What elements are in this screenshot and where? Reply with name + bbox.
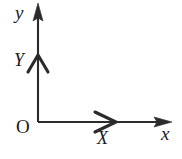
y-axis-arrowhead-icon [33,3,43,21]
vector-y-label: Y [14,51,24,69]
y-axis-label: y [15,3,23,22]
coordinate-axes-figure: y Y O X x [0,0,182,159]
x-axis-label: x [161,124,169,143]
origin-label: O [16,117,30,136]
vector-x-label: X [97,129,108,147]
